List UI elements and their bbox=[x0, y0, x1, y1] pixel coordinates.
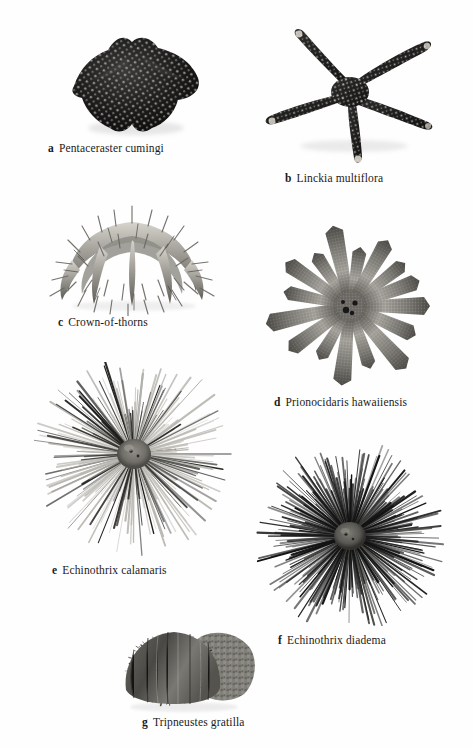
long-spine-urchin-light-icon bbox=[34, 362, 234, 558]
specimen-plate: aPentaceraster cumingi bbox=[0, 0, 473, 748]
caption-d-name: Prionocidaris hawaiiensis bbox=[286, 396, 408, 408]
caption-a: aPentaceraster cumingi bbox=[48, 142, 164, 154]
short-spine-urchin-icon bbox=[112, 604, 262, 714]
caption-g-label: g bbox=[142, 716, 148, 728]
caption-e: eEchinothrix calamaris bbox=[52, 564, 167, 576]
caption-c: cCrown-of-thorns bbox=[58, 316, 148, 328]
figure-g-tripneustes-gratilla bbox=[112, 604, 262, 714]
caption-f-label: f bbox=[278, 634, 282, 646]
caption-c-name: Crown-of-thorns bbox=[68, 316, 148, 328]
caption-f-name: Echinothrix diadema bbox=[287, 634, 386, 646]
crown-of-thorns-icon bbox=[42, 196, 222, 316]
caption-a-label: a bbox=[48, 142, 54, 154]
caption-c-label: c bbox=[58, 316, 63, 328]
starfish-slender-icon bbox=[258, 24, 444, 166]
caption-a-name: Pentaceraster cumingi bbox=[59, 142, 164, 154]
caption-b-label: b bbox=[285, 172, 292, 184]
long-spine-urchin-dark-icon bbox=[250, 440, 450, 626]
caption-e-name: Echinothrix calamaris bbox=[62, 564, 166, 576]
caption-d: dPrionocidaris hawaiiensis bbox=[274, 396, 407, 408]
caption-f: fEchinothrix diadema bbox=[278, 634, 386, 646]
starfish-thick-icon bbox=[52, 28, 210, 140]
figure-c-crown-of-thorns bbox=[42, 196, 222, 316]
caption-e-label: e bbox=[52, 564, 57, 576]
caption-b-name: Linckia multiflora bbox=[297, 172, 384, 184]
figure-d-prionocidaris-hawaiiensis bbox=[256, 222, 444, 390]
caption-g-name: Tripneustes gratilla bbox=[153, 716, 245, 728]
figure-e-echinothrix-calamaris bbox=[34, 362, 234, 558]
figure-b-linckia-multiflora bbox=[258, 24, 444, 166]
caption-d-label: d bbox=[274, 396, 281, 408]
caption-b: bLinckia multiflora bbox=[285, 172, 383, 184]
figure-a-pentaceraster-cumingi bbox=[52, 28, 210, 140]
figure-f-echinothrix-diadema bbox=[250, 440, 450, 626]
pencil-urchin-icon bbox=[256, 222, 444, 390]
caption-g: gTripneustes gratilla bbox=[142, 716, 245, 728]
